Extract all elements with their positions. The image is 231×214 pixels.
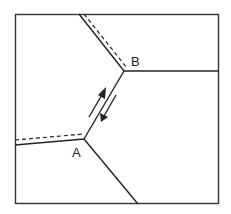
- boundary-bottom: [84, 139, 138, 204]
- label-b: B: [131, 54, 140, 69]
- frame: [16, 15, 219, 204]
- arrow-up-icon: [89, 87, 106, 117]
- boundary-top-left: [79, 14, 124, 71]
- grain-boundary-diagram: B A: [0, 0, 231, 214]
- boundary-ab: [84, 71, 124, 139]
- label-a: A: [72, 145, 81, 160]
- boundary-left-offset-dashed: [15, 134, 84, 140]
- boundary-top-left-offset-dashed: [84, 14, 127, 68]
